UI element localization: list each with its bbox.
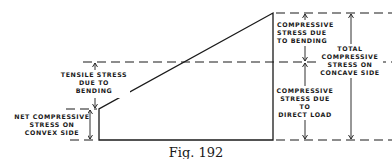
- label-line: TOTAL: [337, 45, 362, 52]
- label-line: BENDING: [76, 87, 113, 94]
- compressive-bending-label: COMPRESSIVE STRESS DUE TO BENDING: [276, 20, 334, 46]
- label-line: CONVEX SIDE: [25, 129, 79, 136]
- label-line: DUE TO: [79, 79, 109, 86]
- label-line: DIRECT LOAD: [278, 111, 332, 118]
- label-line: TO: [300, 103, 311, 110]
- total-compressive-label: TOTAL COMPRESSIVE STRESS ON CONCAVE SIDE: [317, 44, 383, 78]
- net-compressive-stress-label: NET COMPRESSIVE STRESS ON CONVEX SIDE: [14, 112, 89, 138]
- compressive-direct-load-label: COMPRESSIVE STRESS DUE TO DIRECT LOAD: [276, 86, 336, 120]
- label-line: TO BENDING: [277, 37, 327, 44]
- label-line: CONCAVE SIDE: [320, 69, 379, 76]
- label-line: STRESS DUE: [280, 95, 330, 102]
- tensile-stress-label: TENSILE STRESS DUE TO BENDING: [58, 70, 130, 98]
- label-line: COMPRESSIVE: [277, 87, 334, 94]
- figure-caption: Fig. 192: [169, 145, 224, 159]
- label-line: STRESS DUE: [277, 29, 327, 36]
- label-line: COMPRESSIVE: [322, 53, 379, 60]
- label-line: STRESS ON: [30, 121, 75, 128]
- label-line: COMPRESSIVE: [277, 21, 334, 28]
- label-line: TENSILE STRESS: [61, 71, 127, 78]
- label-line: STRESS ON: [328, 61, 373, 68]
- stress-diagram: TENSILE STRESS DUE TO BENDING NET COMPRE…: [0, 0, 392, 159]
- label-line: NET COMPRESSIVE: [14, 113, 89, 120]
